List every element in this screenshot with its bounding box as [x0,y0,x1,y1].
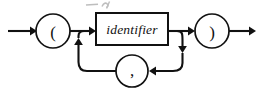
open-paren-node: ( [36,14,70,48]
exit-arrow-group [229,26,256,35]
loop-top-join-edge [79,31,91,38]
comma-in-arrow-head-icon [149,66,156,75]
identifier-node: identifier [96,13,168,45]
close-paren-in-arrow-head-icon [188,27,195,36]
comma-node: , [116,55,148,87]
identifier-in-arrow-head-icon [89,27,96,36]
loop-descend-edge [177,31,187,53]
entry-arrow-group [8,26,37,35]
railroad-svg-canvas: ( identifier ) [0,0,261,88]
loop-right-bottom-curve [155,53,183,71]
loop-return-arrow-head-icon [74,38,83,45]
close-paren-node: ) [195,14,229,48]
close-paren-label: ) [209,23,215,42]
loop-descend-arrow-head-icon [178,46,187,53]
loop-descend-curve [177,31,183,47]
identifier-label: identifier [106,22,158,37]
loop-top-join-curve [79,31,91,38]
railroad-diagram: ( identifier ) [0,0,261,88]
exit-arrow-head-icon [249,26,256,35]
comma-label: , [130,61,134,80]
open-paren-label: ( [50,23,56,42]
loop-return-curve [79,44,117,71]
loop-right-bottom-edge [149,53,183,76]
